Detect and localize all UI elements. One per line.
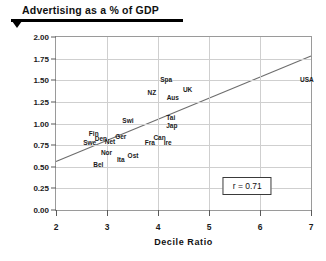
x-axis-tick-label: 2 xyxy=(54,222,59,232)
y-axis-tick-label: 0.75 xyxy=(33,141,49,150)
y-axis-tick-mark xyxy=(51,58,56,59)
gridline-horizontal xyxy=(56,102,311,103)
x-axis-tick-mark xyxy=(209,210,210,216)
x-axis-tick-label: 3 xyxy=(105,222,110,232)
gridline-horizontal xyxy=(56,188,311,189)
y-axis-tick-label: 1.00 xyxy=(33,119,49,128)
data-point-label: UK xyxy=(183,87,192,94)
data-point-label: Jap xyxy=(166,123,177,130)
data-point-label: Spa xyxy=(160,77,172,84)
y-axis-tick-label: 2.00 xyxy=(33,33,49,42)
y-axis-tick-mark xyxy=(51,80,56,81)
data-point-label: Bel xyxy=(93,162,103,169)
x-axis-tick-label: 7 xyxy=(309,222,314,232)
gridline-vertical xyxy=(158,37,159,210)
gridline-vertical xyxy=(107,37,108,210)
y-axis-tick-mark xyxy=(51,145,56,146)
y-axis-tick-mark xyxy=(51,123,56,124)
data-point-label: Tai xyxy=(166,115,175,122)
plot-area: 0.000.250.500.751.001.251.501.752.002345… xyxy=(55,36,312,211)
y-axis-tick-mark xyxy=(51,166,56,167)
data-point-label: Net xyxy=(105,138,115,145)
x-axis-tick-mark xyxy=(107,210,108,216)
y-axis-tick-label: 0.25 xyxy=(33,184,49,193)
data-point-label: Ita xyxy=(117,157,125,164)
x-axis-tick-label: 6 xyxy=(258,222,263,232)
x-axis-tick-mark xyxy=(56,210,57,216)
y-axis-tick-label: 0.00 xyxy=(33,206,49,215)
x-axis-tick-label: 4 xyxy=(156,222,161,232)
data-point-label: Ger xyxy=(115,134,126,141)
x-axis-tick-mark xyxy=(260,210,261,216)
gridline-horizontal xyxy=(56,80,311,81)
data-point-label: NZ xyxy=(148,90,157,97)
gridline-horizontal xyxy=(56,59,311,60)
gridline-vertical xyxy=(209,37,210,210)
y-axis-tick-label: 1.25 xyxy=(33,97,49,106)
data-point-label: Ost xyxy=(128,153,139,160)
y-axis-tick-label: 1.50 xyxy=(33,76,49,85)
gridline-horizontal xyxy=(56,124,311,125)
correlation-annotation: r = 0.71 xyxy=(223,177,272,195)
data-point-label: USA xyxy=(300,77,314,84)
x-axis-tick-mark xyxy=(158,210,159,216)
y-axis-tick-mark xyxy=(51,101,56,102)
data-point-label: Ire xyxy=(164,139,172,146)
y-axis-tick-mark xyxy=(51,188,56,189)
data-point-label: Aus xyxy=(167,95,179,102)
y-axis-tick-label: 1.75 xyxy=(33,54,49,63)
y-axis-tick-mark xyxy=(51,37,56,38)
data-point-label: Swi xyxy=(122,118,133,125)
x-axis-tick-mark xyxy=(311,210,312,216)
x-axis-tick-label: 5 xyxy=(207,222,212,232)
data-point-label: Nor xyxy=(101,150,112,157)
chart-container: 0.000.250.500.751.001.251.501.752.002345… xyxy=(0,0,326,261)
y-axis-tick-label: 0.50 xyxy=(33,162,49,171)
x-axis-title: Decile Ratio xyxy=(55,237,312,247)
